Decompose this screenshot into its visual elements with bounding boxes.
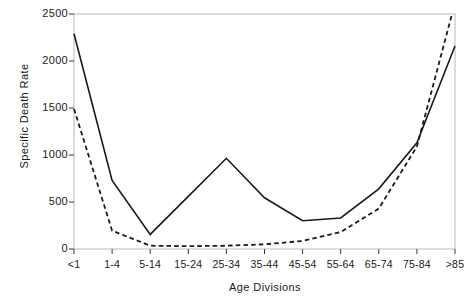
x-tick-label: >85 <box>430 258 471 270</box>
chart-figure: Specific Death Rate 05001000150020002500… <box>0 0 471 302</box>
x-axis-label: Age Divisions <box>74 281 456 293</box>
series-line-dashed <box>74 3 455 246</box>
plot-frame <box>74 14 455 249</box>
axis-ticks <box>69 14 455 254</box>
series-line-solid <box>74 34 455 235</box>
series-lines <box>74 3 455 246</box>
plot-border <box>74 14 455 249</box>
plot-canvas <box>0 0 471 302</box>
